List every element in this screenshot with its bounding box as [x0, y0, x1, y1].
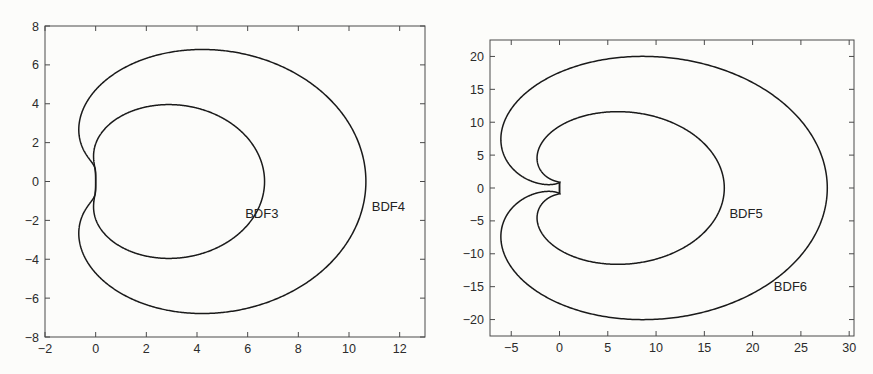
- x-tick-label: 0: [556, 341, 563, 355]
- y-tick-label: −20: [463, 313, 484, 327]
- x-tick-label: 6: [244, 342, 251, 356]
- x-axis-ticks-left: −2024681012: [38, 26, 407, 356]
- bdf-stability-regions-figure: −2024681012 −8−6−4−202468 BDF3BDF4 −5051…: [0, 0, 873, 374]
- curve-label-bdf6: BDF6: [774, 279, 807, 294]
- curve-label-bdf3: BDF3: [245, 206, 278, 221]
- y-tick-label: 4: [32, 97, 39, 111]
- y-tick-label: −4: [25, 253, 39, 267]
- chart-svg-right: −5051015202530 −20−15−10−505101520 BDF5B…: [440, 0, 873, 374]
- y-tick-label: 0: [32, 175, 39, 189]
- y-tick-label: 5: [477, 149, 484, 163]
- x-tick-label: 10: [649, 341, 663, 355]
- curve-label-bdf5: BDF5: [729, 206, 762, 221]
- y-tick-label: −10: [463, 247, 484, 261]
- x-axis-ticks-right: −5051015202530: [504, 40, 856, 355]
- x-tick-label: 5: [604, 341, 611, 355]
- axes-frame-left: [45, 26, 425, 337]
- chart-svg-left: −2024681012 −8−6−4−202468 BDF3BDF4: [0, 0, 440, 374]
- x-tick-label: 8: [295, 342, 302, 356]
- curve-bdf3: [94, 105, 265, 259]
- y-tick-label: −6: [25, 292, 39, 306]
- y-tick-label: −5: [470, 214, 484, 228]
- curve-bdf4: [79, 49, 366, 313]
- y-tick-label: 0: [477, 182, 484, 196]
- y-tick-label: 8: [32, 20, 39, 34]
- x-tick-label: −5: [504, 341, 518, 355]
- x-tick-label: 30: [842, 341, 856, 355]
- y-tick-label: −2: [25, 214, 39, 228]
- x-tick-label: 12: [393, 342, 407, 356]
- x-tick-label: 10: [342, 342, 356, 356]
- x-tick-label: 25: [794, 341, 808, 355]
- x-tick-label: 4: [194, 342, 201, 356]
- curve-group-left: [79, 49, 366, 313]
- y-tick-label: 15: [470, 83, 484, 97]
- x-tick-label: −2: [38, 342, 52, 356]
- curve-annotations-left: BDF3BDF4: [245, 199, 405, 222]
- x-tick-label: 0: [92, 342, 99, 356]
- x-tick-label: 15: [697, 341, 711, 355]
- y-tick-label: 20: [470, 50, 484, 64]
- y-tick-label: −15: [463, 280, 484, 294]
- y-tick-label: 10: [470, 116, 484, 130]
- y-tick-label: −8: [25, 331, 39, 345]
- y-tick-label: 2: [32, 136, 39, 150]
- curve-annotations-right: BDF5BDF6: [729, 206, 807, 294]
- y-tick-label: 6: [32, 58, 39, 72]
- chart-panel-right: −5051015202530 −20−15−10−505101520 BDF5B…: [440, 0, 873, 374]
- chart-panel-left: −2024681012 −8−6−4−202468 BDF3BDF4: [0, 0, 440, 374]
- x-tick-label: 20: [746, 341, 760, 355]
- y-axis-ticks-left: −8−6−4−202468: [25, 20, 425, 345]
- curve-bdf5: [537, 112, 724, 265]
- curve-label-bdf4: BDF4: [372, 199, 405, 214]
- x-tick-label: 2: [143, 342, 150, 356]
